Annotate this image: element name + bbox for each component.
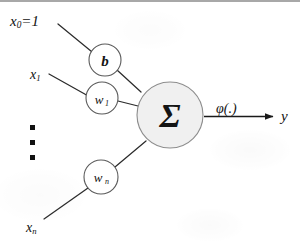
ellipsis-dot-3 [30, 155, 35, 160]
input-label-xn: xn [26, 221, 37, 236]
neuron-diagram-svg: Σ b w 1 w n [0, 0, 300, 245]
neuron-diagram-canvas: Σ b w 1 w n x0=1 x1 xn φ(.) y [0, 0, 300, 245]
input-x1-subscript: 1 [36, 73, 40, 83]
wn-node-label: w [94, 170, 103, 185]
wn-node-subscript: n [105, 177, 109, 186]
ellipsis-dot-1 [30, 125, 35, 130]
input-x0-base: x [10, 13, 17, 29]
bias-node-label: b [101, 53, 109, 69]
w1-node-subscript: 1 [105, 99, 109, 108]
input-xn-subscript: n [32, 226, 36, 236]
output-label: y [281, 109, 288, 124]
edge-w1-to-sum [118, 101, 138, 106]
activation-function-label: φ(.) [216, 102, 237, 116]
edge-xn-to-wn [44, 188, 88, 219]
edge-bias-to-sum [117, 70, 141, 92]
input-label-x0: x0=1 [10, 14, 39, 31]
ellipsis-dot-2 [30, 140, 35, 145]
input-label-x1: x1 [30, 68, 41, 83]
input-x0-suffix: =1 [21, 13, 39, 29]
edge-x0-to-bias [58, 24, 92, 52]
edge-wn-to-sum [115, 141, 146, 167]
w1-node-label: w [95, 92, 104, 107]
edge-x1-to-w1 [49, 74, 87, 95]
summation-symbol: Σ [158, 97, 180, 134]
